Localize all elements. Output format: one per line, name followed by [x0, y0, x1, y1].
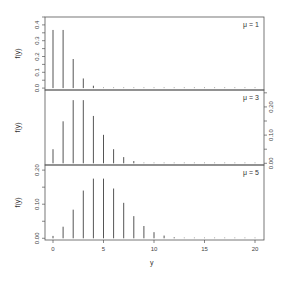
y-tick-label: 0.4 [34, 20, 40, 29]
y-tick-label: 0.00 [34, 232, 40, 244]
panel-frame [45, 165, 264, 240]
x-tick-label: 15 [201, 246, 208, 252]
y-axis-label: f(y) [14, 48, 22, 58]
panel-label: μ = 1 [243, 21, 259, 29]
y-tick-label: 0.1 [34, 67, 40, 76]
x-tick-label: 0 [51, 246, 55, 252]
y-tick-label: 0.10 [34, 198, 40, 210]
y-tick-label: 0.20 [268, 100, 274, 112]
x-tick-label: 20 [252, 246, 259, 252]
x-axis-label: y [150, 259, 154, 266]
y-tick-label: 0.3 [34, 36, 40, 45]
y-tick-label: 0.00 [268, 157, 274, 169]
y-tick-label: 0.0 [34, 83, 40, 92]
y-tick-label: 0.10 [268, 129, 274, 141]
x-tick-label: 10 [151, 246, 158, 252]
y-tick-label: 0.2 [34, 52, 40, 61]
x-tick-label: 5 [102, 246, 106, 252]
panel-frame [45, 90, 264, 165]
y-tick-label: 0.20 [34, 164, 40, 176]
y-axis-label: f(y) [14, 197, 22, 207]
panel-frame [45, 17, 264, 90]
poisson-chart: 0.00.10.20.30.4f(y)μ = 10.000.100.20f(y)… [0, 0, 288, 284]
panel-label: μ = 5 [243, 169, 259, 177]
panel-label: μ = 3 [243, 94, 259, 102]
y-axis-label: f(y) [14, 122, 22, 132]
